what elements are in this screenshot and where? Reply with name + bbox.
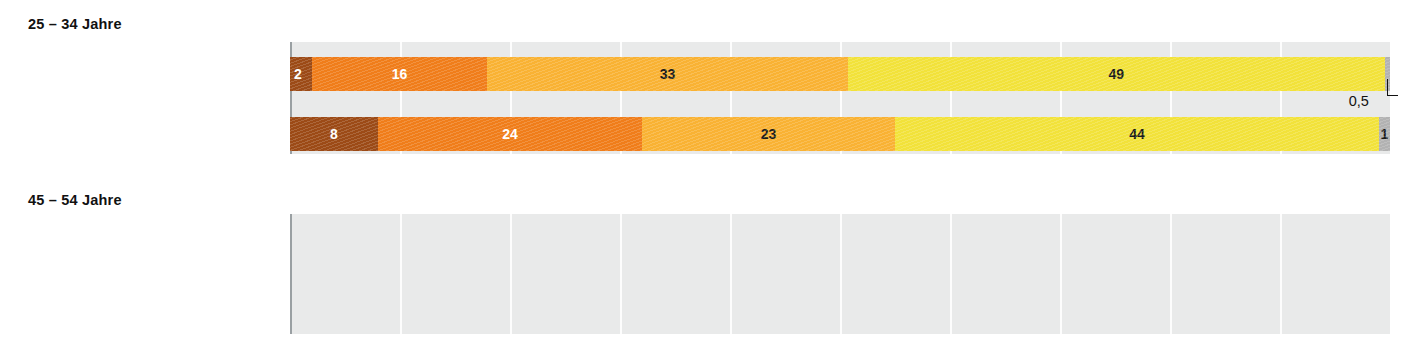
- bar-segment: 23: [642, 117, 895, 151]
- bar-segment: 44: [895, 117, 1379, 151]
- bar-segment-value: 16: [392, 67, 408, 81]
- bar-segment: 1: [1379, 117, 1390, 151]
- bar-segment: 24: [378, 117, 642, 151]
- bar-segment-value: 24: [502, 127, 518, 141]
- stacked-bar: 2163349: [290, 57, 1390, 91]
- bar-segment-value: 23: [761, 127, 777, 141]
- plot-background-band: [290, 214, 1390, 334]
- value-callout: 0,5: [1349, 93, 1369, 109]
- stacked-bar-chart: 25 – 34 Jahre Ohne Migrationshintergrund…: [0, 0, 1424, 356]
- y-axis-line: [290, 214, 292, 334]
- table-row: Mit Migrationshintergrund 82423441: [0, 117, 1424, 151]
- bar-segment: 33: [487, 57, 848, 91]
- bar-segment: 49: [848, 57, 1384, 91]
- chart-group-25-34: 25 – 34 Jahre Ohne Migrationshintergrund…: [0, 0, 1424, 176]
- group-title-45-54: 45 – 54 Jahre: [28, 192, 122, 208]
- bar-segment: 16: [312, 57, 487, 91]
- stacked-bar: 82423441: [290, 117, 1390, 151]
- callout-leader-line: [1387, 79, 1398, 96]
- bar-segment-value: 8: [330, 127, 338, 141]
- chart-group-45-54: 45 – 54 Jahre Ohne Migrationshintergrund…: [0, 176, 1424, 356]
- bar-segment-value: 33: [660, 67, 676, 81]
- bar-segment: 2: [290, 57, 312, 91]
- group-title-25-34: 25 – 34 Jahre: [28, 16, 122, 32]
- bar-segment-value: 2: [294, 67, 302, 81]
- table-row: Ohne Migrationshintergrund 2163349 0,5: [0, 57, 1424, 91]
- bar-segment-value: 49: [1109, 67, 1125, 81]
- bar-segment-value: 44: [1129, 127, 1145, 141]
- bar-segment-value: 1: [1381, 127, 1389, 141]
- value-callout-text: 0,5: [1349, 93, 1369, 109]
- bar-segment: 8: [290, 117, 378, 151]
